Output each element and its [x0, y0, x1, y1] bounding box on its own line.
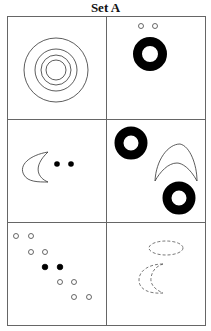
cell-r1c1-concentric-circles: [24, 38, 88, 102]
cell-r2c1-crescent-dots: [22, 152, 73, 182]
puzzle-grid: [0, 0, 211, 331]
cell-r3c1-circle-diagonal: [14, 234, 92, 300]
grid-lines: [8, 17, 206, 326]
cell-r2c2-rings-arch: [119, 131, 197, 210]
cell-r1c2-ring-with-circles: [138, 24, 163, 67]
cell-r3c2-dashed-shapes: [139, 241, 183, 293]
